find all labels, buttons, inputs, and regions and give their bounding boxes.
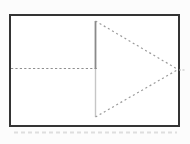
diagram-svg: [0, 0, 190, 144]
figure-canvas: [0, 0, 190, 144]
outer-frame: [10, 15, 179, 126]
